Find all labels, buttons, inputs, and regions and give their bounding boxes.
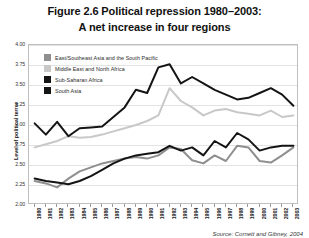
- x-tick: [146, 204, 147, 207]
- x-tick: [214, 204, 215, 207]
- x-tick: [292, 204, 293, 207]
- y-tick-label: 3.75: [15, 61, 25, 67]
- x-tick-label: 1988: [126, 208, 132, 219]
- figure-title-line-2: A net increase in four regions: [0, 19, 309, 35]
- x-tick: [180, 204, 181, 207]
- y-axis: Level of political terror 4.003.753.503.…: [0, 44, 27, 204]
- x-tick: [270, 204, 271, 207]
- x-tick: [225, 204, 226, 207]
- y-tick-label: 3.25: [15, 101, 25, 107]
- source-note: Source: Cornett and Gibney, 2004: [212, 231, 303, 237]
- x-tick-label: 1997: [227, 208, 233, 219]
- x-tick: [135, 204, 136, 207]
- x-tick: [112, 204, 113, 207]
- legend-item: South Asia: [44, 85, 158, 96]
- x-tick-label: 1991: [159, 208, 165, 219]
- x-tick-label: 2001: [272, 208, 278, 219]
- legend-swatch: [44, 54, 51, 61]
- x-tick: [45, 204, 46, 207]
- y-axis-title: Level of political terror: [13, 71, 19, 191]
- x-tick: [90, 204, 91, 207]
- x-tick-label: 2003: [294, 208, 300, 219]
- legend-swatch: [44, 87, 51, 94]
- y-tick-label: 3.00: [15, 121, 25, 127]
- x-tick: [67, 204, 68, 207]
- y-tick-label: 4.00: [15, 41, 25, 47]
- x-tick-label: 1984: [81, 208, 87, 219]
- x-tick: [259, 204, 260, 207]
- figure-title: Figure 2.6 Political repression 1980–200…: [0, 3, 309, 35]
- legend-item: East/Southeast Asia and the South Pacifi…: [44, 52, 158, 63]
- x-tick-label: 1998: [238, 208, 244, 219]
- series-line: [35, 88, 294, 147]
- y-tick-label: 3.50: [15, 81, 25, 87]
- x-tick-label: 1985: [92, 208, 98, 219]
- x-tick: [247, 204, 248, 207]
- x-tick-label: 1983: [69, 208, 75, 219]
- legend-label: South Asia: [55, 88, 81, 94]
- legend-swatch: [44, 65, 51, 72]
- y-tick-label: 2.25: [15, 181, 25, 187]
- legend-item: Sub-Saharan Africa: [44, 74, 158, 85]
- x-tick-label: 1993: [182, 208, 188, 219]
- legend: East/Southeast Asia and the South Pacifi…: [44, 52, 158, 96]
- legend-item: Middle East and North Africa: [44, 63, 158, 74]
- legend-swatch: [44, 76, 51, 83]
- series-line: [35, 146, 294, 188]
- x-tick: [79, 204, 80, 207]
- x-tick: [101, 204, 102, 207]
- x-tick-label: 1994: [193, 208, 199, 219]
- x-tick: [34, 204, 35, 207]
- x-tick-label: 1990: [148, 208, 154, 219]
- x-tick-label: 1996: [216, 208, 222, 219]
- legend-label: Middle East and North Africa: [55, 66, 125, 72]
- x-tick-label: 1995: [204, 208, 210, 219]
- x-tick-label: 1982: [58, 208, 64, 219]
- x-tick: [281, 204, 282, 207]
- x-tick-label: 1987: [114, 208, 120, 219]
- x-tick-label: 2002: [283, 208, 289, 219]
- x-tick: [124, 204, 125, 207]
- x-tick: [157, 204, 158, 207]
- x-tick: [56, 204, 57, 207]
- legend-label: Sub-Saharan Africa: [55, 77, 103, 83]
- y-tick-label: 2.75: [15, 141, 25, 147]
- x-tick: [236, 204, 237, 207]
- figure-container: Figure 2.6 Political repression 1980–200…: [0, 0, 309, 238]
- y-tick-label: 2.50: [15, 161, 25, 167]
- x-tick-label: 1989: [137, 208, 143, 219]
- x-tick-label: 2000: [261, 208, 267, 219]
- figure-title-line-1: Figure 2.6 Political repression 1980–200…: [0, 3, 309, 19]
- y-tick-label: 2.00: [15, 201, 25, 207]
- legend-label: East/Southeast Asia and the South Pacifi…: [55, 55, 158, 61]
- x-tick-label: 1981: [47, 208, 53, 219]
- x-tick: [191, 204, 192, 207]
- x-tick: [169, 204, 170, 207]
- x-tick-label: 1999: [249, 208, 255, 219]
- x-tick-label: 1986: [103, 208, 109, 219]
- x-tick-label: 1992: [171, 208, 177, 219]
- x-tick: [202, 204, 203, 207]
- x-tick-label: 1980: [36, 208, 42, 219]
